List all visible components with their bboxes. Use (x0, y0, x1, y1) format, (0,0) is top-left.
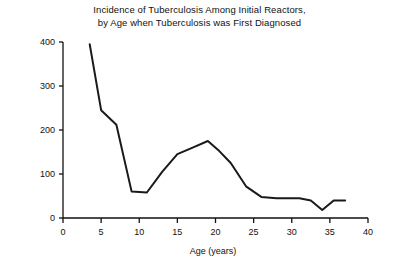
y-axis-tick-label: 400 (40, 37, 55, 47)
x-axis-tick-label: 15 (172, 227, 182, 237)
x-axis-tick-label: 35 (325, 227, 335, 237)
x-axis-tick-label: 5 (99, 227, 104, 237)
x-axis-tick-label: 30 (287, 227, 297, 237)
data-line-case-rate (90, 44, 345, 210)
data-series-group (90, 44, 345, 210)
x-axis-tick-label: 25 (249, 227, 259, 237)
x-axis-tick-label: 20 (210, 227, 220, 237)
chart-axes (63, 42, 368, 218)
y-axis-tick-label: 300 (40, 81, 55, 91)
y-axis-tick-label: 100 (40, 169, 55, 179)
x-axis-tick-label: 10 (134, 227, 144, 237)
x-axis-tick-label: 40 (363, 227, 373, 237)
y-axis-tick-label: 0 (50, 213, 55, 223)
x-axis-ticks: 0510152025303540 (60, 218, 373, 237)
y-axis-tick-label: 200 (40, 125, 55, 135)
chart-plot-area: 0100200300400 0510152025303540 (0, 0, 399, 267)
chart-figure: Incidence of Tuberculosis Among Initial … (0, 0, 399, 267)
x-axis-tick-label: 0 (60, 227, 65, 237)
y-axis-ticks: 0100200300400 (40, 37, 63, 223)
